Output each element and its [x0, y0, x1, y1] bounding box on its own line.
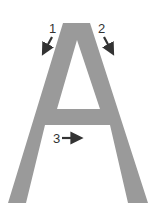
letter-a-diagram: 1 2 3 — [0, 0, 157, 215]
stroke-2-arrow-icon — [104, 37, 111, 50]
stroke-3-label: 3 — [53, 131, 60, 146]
stroke-2-label: 2 — [98, 21, 105, 36]
stroke-1-label: 1 — [49, 21, 56, 36]
letter-a-shape — [8, 23, 148, 203]
stroke-1-arrow-icon — [45, 37, 52, 50]
